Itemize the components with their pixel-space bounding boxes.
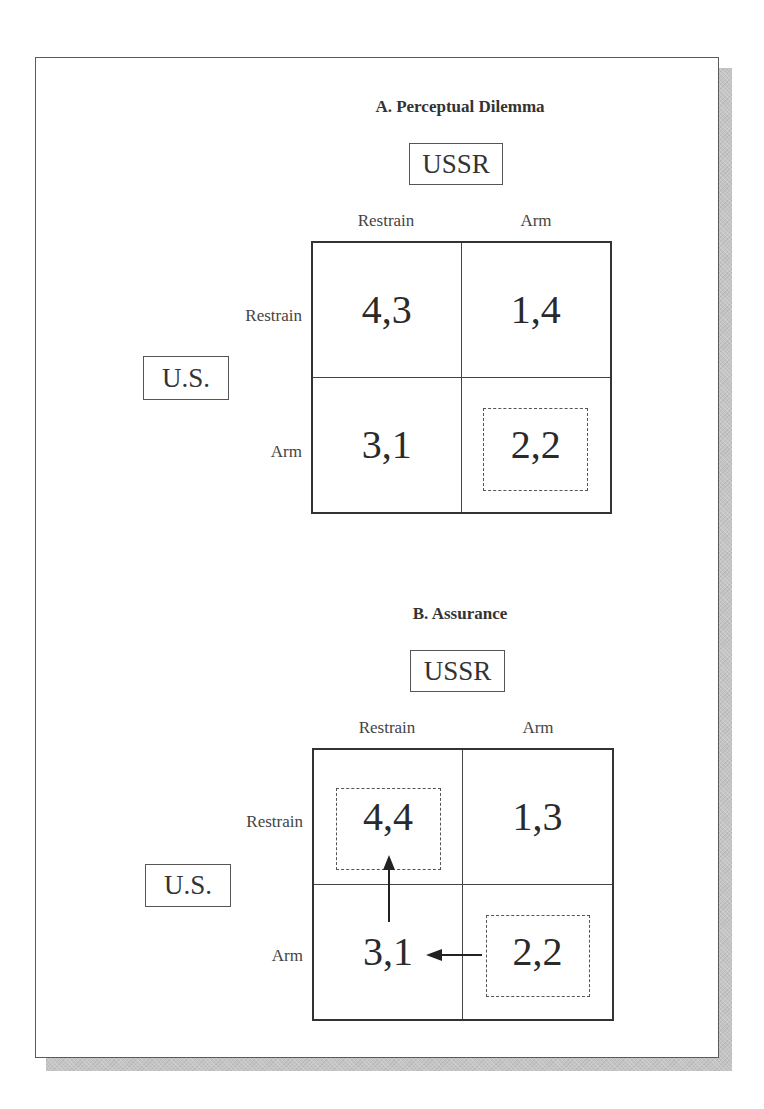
payoff-value: 2,2 bbox=[511, 421, 561, 468]
panel-b-title: B. Assurance bbox=[310, 604, 610, 624]
payoff-value: 4,3 bbox=[362, 286, 412, 333]
panel-b-cell-restrain-arm: 1,3 bbox=[463, 750, 612, 885]
panel-a-row-label-restrain: Restrain bbox=[202, 306, 302, 326]
payoff-value: 1,4 bbox=[511, 286, 561, 333]
panel-b-cell-arm-restrain: 3,1 bbox=[314, 885, 463, 1020]
panel-a-cell-arm-restrain: 3,1 bbox=[313, 378, 462, 513]
payoff-value: 3,1 bbox=[363, 928, 413, 975]
payoff-value: 3,1 bbox=[362, 421, 412, 468]
panel-a-col-label-arm: Arm bbox=[461, 211, 611, 231]
panel-a-cell-restrain-restrain: 4,3 bbox=[313, 243, 462, 378]
panel-a-payoff-matrix: 4,3 1,4 3,1 2,2 bbox=[311, 241, 612, 514]
panel-b-row-player-box: U.S. bbox=[145, 864, 231, 907]
panel-a-row-label-arm: Arm bbox=[202, 442, 302, 462]
panel-a-cell-arm-arm: 2,2 bbox=[462, 378, 611, 513]
payoff-value: 1,3 bbox=[513, 793, 563, 840]
panel-b-payoff-matrix: 4,4 1,3 3,1 2,2 bbox=[312, 748, 614, 1021]
panel-b-cell-restrain-restrain: 4,4 bbox=[314, 750, 463, 885]
panel-a-column-player-box: USSR bbox=[409, 143, 503, 185]
panel-b-row-label-restrain: Restrain bbox=[203, 812, 303, 832]
panel-b-col-label-arm: Arm bbox=[463, 718, 613, 738]
payoff-value: 2,2 bbox=[513, 928, 563, 975]
panel-b-cell-arm-arm: 2,2 bbox=[463, 885, 612, 1020]
panel-b-row-label-arm: Arm bbox=[203, 946, 303, 966]
panel-a-col-label-restrain: Restrain bbox=[311, 211, 461, 231]
panel-a-title: A. Perceptual Dilemma bbox=[310, 97, 610, 117]
panel-b-column-player-box: USSR bbox=[410, 650, 505, 692]
panel-a-cell-restrain-arm: 1,4 bbox=[462, 243, 611, 378]
panel-b-col-label-restrain: Restrain bbox=[312, 718, 462, 738]
payoff-value: 4,4 bbox=[363, 793, 413, 840]
panel-a-row-player-box: U.S. bbox=[143, 356, 229, 400]
